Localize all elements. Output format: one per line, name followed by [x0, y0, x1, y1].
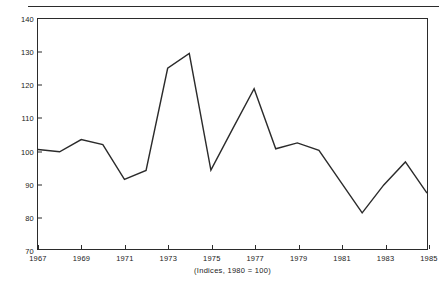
top-divider-rule	[28, 6, 439, 7]
y-axis-tick-label: 130	[21, 48, 34, 57]
x-axis-tick-label: 1981	[333, 254, 351, 263]
y-axis-tick-mark	[38, 184, 42, 185]
x-axis-tick-label: 1973	[160, 254, 178, 263]
x-axis-tick-label: 1967	[29, 254, 47, 263]
x-axis-tick-mark	[81, 245, 82, 249]
x-axis-tick-mark	[38, 245, 39, 249]
y-axis-tick-label: 80	[25, 213, 34, 222]
x-axis-tick-mark	[342, 245, 343, 249]
y-axis-tick-label: 90	[25, 180, 34, 189]
y-axis-tick-mark	[38, 151, 42, 152]
x-axis-tick-label: 1969	[73, 254, 91, 263]
y-axis-tick-label: 110	[21, 114, 34, 123]
x-axis-tick-label: 1983	[377, 254, 395, 263]
y-axis-tick-label: 100	[21, 147, 34, 156]
x-axis-tick-label: 1985	[420, 254, 438, 263]
chart-caption: (Indices, 1980 = 100)	[37, 266, 428, 275]
chart-figure: 7080901001101201301401967196919711973197…	[0, 0, 447, 289]
y-axis-tick-mark	[38, 85, 42, 86]
x-axis-tick-label: 1971	[116, 254, 134, 263]
y-axis-tick-mark	[38, 52, 42, 53]
x-axis-tick-label: 1979	[290, 254, 308, 263]
x-axis-tick-mark	[168, 245, 169, 249]
plot-area: 7080901001101201301401967196919711973197…	[37, 18, 428, 250]
y-axis-tick-mark	[38, 217, 42, 218]
y-axis-tick-label: 140	[21, 15, 34, 24]
x-axis-tick-mark	[125, 245, 126, 249]
line-series	[38, 19, 427, 249]
x-axis-tick-mark	[255, 245, 256, 249]
x-axis-tick-mark	[299, 245, 300, 249]
y-axis-tick-label: 120	[21, 81, 34, 90]
x-axis-tick-label: 1977	[246, 254, 264, 263]
x-axis-tick-mark	[429, 245, 430, 249]
series-line-index	[38, 54, 427, 213]
x-axis-tick-label: 1975	[203, 254, 221, 263]
y-axis-tick-mark	[38, 118, 42, 119]
x-axis-tick-mark	[386, 245, 387, 249]
x-axis-tick-mark	[212, 245, 213, 249]
